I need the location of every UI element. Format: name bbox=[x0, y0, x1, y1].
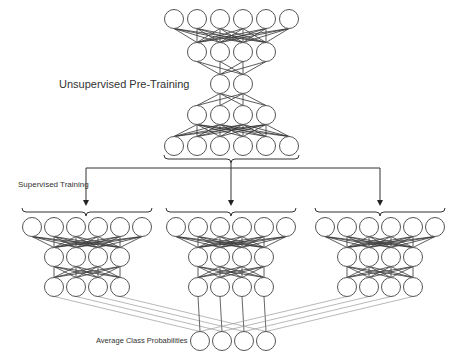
averaging-edge bbox=[200, 297, 347, 332]
neuron-node bbox=[89, 278, 108, 297]
neuron-node bbox=[404, 278, 423, 297]
curly-brace bbox=[22, 208, 152, 216]
neuron-node bbox=[404, 218, 423, 237]
neuron-node bbox=[234, 43, 253, 62]
neuron-node bbox=[188, 137, 207, 156]
neuron-node bbox=[67, 218, 86, 237]
averaging-edge bbox=[266, 297, 413, 332]
neuron-node bbox=[233, 248, 252, 267]
arrow-head-icon bbox=[83, 200, 89, 206]
neuron-node bbox=[382, 218, 401, 237]
neuron-node bbox=[211, 278, 230, 297]
neuron-node bbox=[211, 106, 230, 125]
neuron-node bbox=[111, 248, 130, 267]
average-class-probabilities-label: Average Class Probabilities bbox=[96, 336, 188, 345]
neuron-node bbox=[211, 43, 230, 62]
neuron-node bbox=[382, 278, 401, 297]
neuron-node bbox=[277, 218, 296, 237]
averaging-edge bbox=[222, 297, 369, 332]
averaging-edge bbox=[54, 297, 200, 332]
neuron-node bbox=[45, 248, 64, 267]
neuron-node bbox=[111, 218, 130, 237]
curly-brace bbox=[164, 155, 299, 163]
neuron-node bbox=[211, 75, 230, 94]
supervised-training-label: Supervised Training bbox=[18, 180, 89, 189]
neuron-node bbox=[280, 137, 299, 156]
neuron-node bbox=[404, 248, 423, 267]
neuron-node bbox=[360, 278, 379, 297]
neuron-node bbox=[111, 278, 130, 297]
neuron-node bbox=[255, 248, 274, 267]
edge-line bbox=[197, 94, 220, 106]
neuron-node bbox=[255, 278, 274, 297]
edge-line bbox=[243, 94, 266, 106]
neuron-node bbox=[233, 278, 252, 297]
edge-line bbox=[197, 62, 220, 75]
neuron-node bbox=[211, 10, 230, 29]
neuron-node bbox=[211, 218, 230, 237]
output-node bbox=[257, 332, 276, 351]
neuron-node bbox=[45, 218, 64, 237]
neuron-node bbox=[165, 10, 184, 29]
neuron-node bbox=[234, 106, 253, 125]
neuron-node bbox=[338, 218, 357, 237]
neuron-node bbox=[133, 218, 152, 237]
curly-brace bbox=[166, 208, 296, 216]
neuron-node bbox=[234, 75, 253, 94]
neuron-node bbox=[257, 10, 276, 29]
neuron-node bbox=[257, 106, 276, 125]
neuron-node bbox=[188, 10, 207, 29]
neuron-node bbox=[234, 10, 253, 29]
neuron-node bbox=[188, 106, 207, 125]
neuron-node bbox=[338, 248, 357, 267]
neuron-node bbox=[211, 137, 230, 156]
neuron-node bbox=[23, 218, 42, 237]
neuron-node bbox=[360, 218, 379, 237]
neuron-node bbox=[234, 137, 253, 156]
output-node bbox=[213, 332, 232, 351]
curly-brace bbox=[315, 208, 445, 216]
neuron-node bbox=[189, 248, 208, 267]
neuron-node bbox=[89, 248, 108, 267]
neuron-node bbox=[89, 218, 108, 237]
neuron-node bbox=[189, 218, 208, 237]
neuron-node bbox=[426, 218, 445, 237]
neuron-node bbox=[165, 137, 184, 156]
neuron-node bbox=[255, 218, 274, 237]
neuron-node bbox=[167, 218, 186, 237]
neuron-node bbox=[257, 137, 276, 156]
neuron-node bbox=[280, 10, 299, 29]
neuron-node bbox=[316, 218, 335, 237]
edge-line bbox=[243, 62, 266, 75]
neuron-node bbox=[188, 43, 207, 62]
averaging-edges bbox=[54, 297, 413, 332]
neuron-node bbox=[338, 278, 357, 297]
output-node bbox=[191, 332, 210, 351]
neuron-node bbox=[67, 278, 86, 297]
neuron-node bbox=[360, 248, 379, 267]
neuron-node bbox=[67, 248, 86, 267]
network-edges bbox=[32, 29, 435, 278]
neuron-node bbox=[189, 278, 208, 297]
neuron-node bbox=[382, 248, 401, 267]
averaging-edge bbox=[244, 297, 391, 332]
arrow-head-icon bbox=[228, 200, 234, 206]
neuron-node bbox=[45, 278, 64, 297]
neuron-node bbox=[233, 218, 252, 237]
neuron-node bbox=[211, 248, 230, 267]
arrow-head-icon bbox=[377, 200, 383, 206]
neuron-node bbox=[257, 43, 276, 62]
output-node bbox=[235, 332, 254, 351]
unsupervised-pretraining-label: Unsupervised Pre-Training bbox=[59, 78, 189, 90]
